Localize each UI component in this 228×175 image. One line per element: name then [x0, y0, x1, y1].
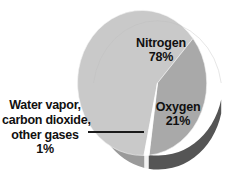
- slice-label-nitrogen-percent: 78%: [124, 50, 198, 64]
- callout-leader-line: [88, 131, 144, 133]
- callout-line-4: 1%: [2, 142, 88, 157]
- callout-line-3: other gases: [2, 128, 88, 143]
- slice-callout-other-gases: Water vapor, carbon dioxide, other gases…: [2, 98, 88, 157]
- pie-slice-other-side: [145, 154, 149, 169]
- pie-chart-figure: Nitrogen 78% Oxygen 21% Water vapor, car…: [0, 0, 228, 175]
- slice-label-nitrogen-name: Nitrogen: [136, 36, 186, 50]
- callout-line-1: Water vapor,: [2, 98, 88, 113]
- slice-label-nitrogen: Nitrogen 78%: [124, 36, 198, 64]
- pie-chart-stage: Nitrogen 78% Oxygen 21% Water vapor, car…: [0, 0, 228, 175]
- callout-line-2: carbon dioxide,: [2, 113, 88, 128]
- slice-label-oxygen: Oxygen 21%: [147, 100, 209, 128]
- slice-label-oxygen-percent: 21%: [147, 114, 209, 128]
- slice-label-oxygen-name: Oxygen: [156, 100, 201, 114]
